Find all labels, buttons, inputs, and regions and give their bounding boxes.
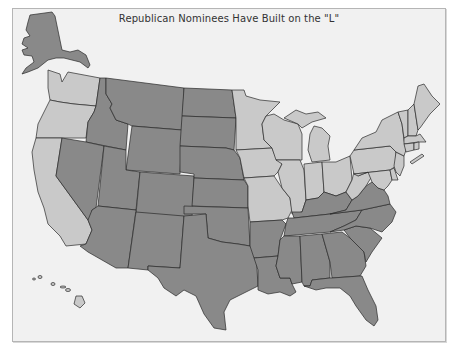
state-IN: [304, 162, 324, 200]
state-CT: [404, 143, 414, 152]
state-WY: [126, 126, 182, 174]
state-AK: [22, 12, 90, 74]
state-WA: [48, 70, 100, 106]
state-ME: [414, 84, 440, 130]
state-NE: [180, 146, 244, 180]
state-RI: [414, 142, 419, 150]
us-map: [0, 0, 456, 352]
state-NM: [128, 212, 184, 270]
state-FL: [304, 276, 378, 326]
state-ND: [182, 88, 236, 118]
state-SD: [180, 116, 236, 150]
state-KS: [192, 178, 248, 208]
state-HI: [33, 276, 86, 309]
long-island: [410, 154, 424, 164]
state-MS: [276, 236, 302, 284]
